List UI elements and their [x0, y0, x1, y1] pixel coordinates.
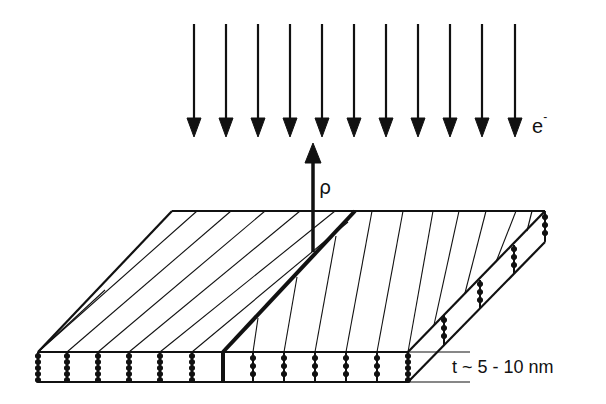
thickness-label: t ~ 5 - 10 nm [452, 357, 554, 378]
right-domain-hatching [253, 211, 532, 352]
side-face-beaded-lines [441, 213, 547, 345]
rho-label: ρ [319, 176, 331, 198]
electron-symbol: e [532, 115, 543, 137]
left-domain-hatching [38, 211, 348, 352]
electron-charge: - [543, 110, 547, 124]
electron-label: e- [532, 114, 547, 138]
thin-film-diagram [0, 0, 606, 404]
domain-boundary [223, 211, 355, 382]
incident-electron-arrows [187, 24, 522, 137]
